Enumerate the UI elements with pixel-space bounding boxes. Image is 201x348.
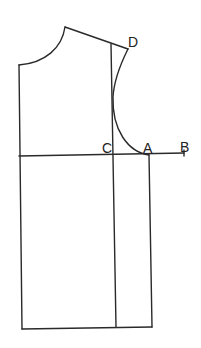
- label-b: B: [180, 139, 189, 155]
- label-a: A: [143, 140, 153, 156]
- hem-line: [22, 327, 152, 329]
- label-c: C: [102, 140, 112, 156]
- pattern-diagram: D C A B: [0, 0, 201, 348]
- center-front-line: [19, 65, 22, 329]
- shoulder-line: [65, 27, 128, 49]
- neckline-curve: [19, 27, 65, 65]
- guide-line-c: [111, 44, 116, 327]
- label-d: D: [128, 34, 138, 50]
- side-seam-line: [149, 155, 152, 327]
